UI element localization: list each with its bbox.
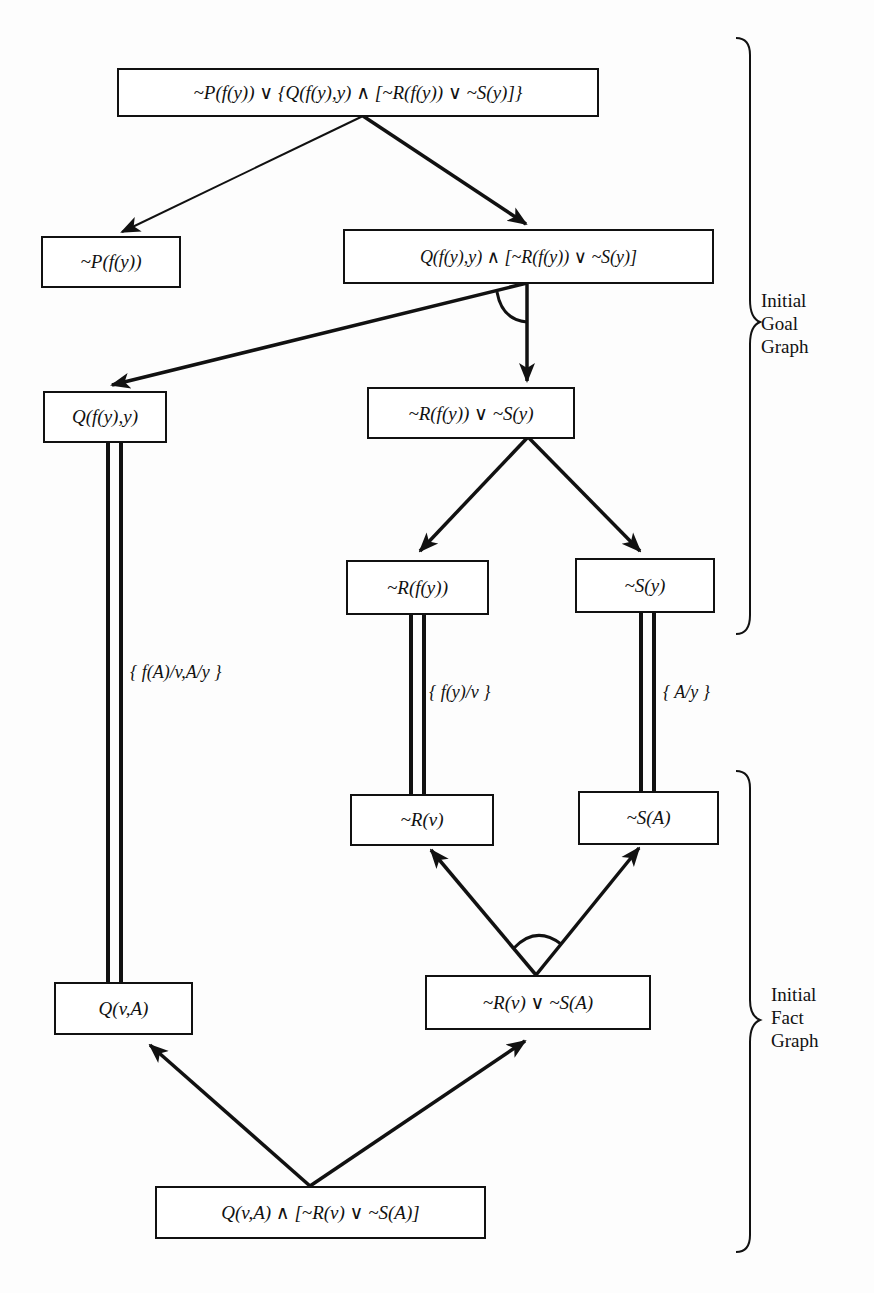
label-initial-goal-graph: Initial Goal Graph: [761, 289, 808, 358]
node-root-goal: ~P(f(y)) ∨ {Q(f(y),y) ∧ [~R(f(y)) ∨ ~S(y…: [117, 68, 599, 117]
edge-fact-root-to-fact-disj: [310, 1041, 525, 1186]
brace-fact-graph: [736, 771, 760, 1252]
edge-conj-to-goal-q: [112, 283, 527, 385]
edges-layer: [0, 0, 874, 1293]
and-arc-goal: [497, 292, 527, 322]
diagram-canvas: ~P(f(y)) ∨ {Q(f(y),y) ∧ [~R(f(y)) ∨ ~S(y…: [0, 0, 874, 1293]
match-link-r: [411, 614, 424, 794]
match-label-q: { f(A)/v,A/y }: [130, 662, 222, 683]
edge-root-to-conj: [363, 116, 526, 224]
node-fact-q: Q(v,A): [54, 982, 193, 1035]
edge-root-to-not-p: [122, 116, 363, 232]
node-goal-not-r: ~R(f(y)): [346, 560, 489, 615]
node-fact-not-r: ~R(v): [350, 794, 494, 846]
node-goal-conj: Q(f(y),y) ∧ [~R(f(y)) ∨ ~S(y)]: [343, 229, 714, 284]
node-fact-disj: ~R(v) ∨ ~S(A): [425, 975, 651, 1030]
edge-fact-root-to-fact-q: [150, 1045, 310, 1186]
match-label-s: { A/y }: [663, 682, 710, 703]
match-label-r: { f(y)/v }: [429, 682, 490, 703]
node-fact-root: Q(v,A) ∧ [~R(v) ∨ ~S(A)]: [155, 1186, 486, 1239]
node-fact-not-s: ~S(A): [578, 791, 719, 845]
match-link-q: [108, 440, 121, 982]
node-goal-not-p: ~P(f(y)): [41, 236, 181, 288]
brace-goal-graph: [736, 38, 760, 634]
match-link-s: [641, 612, 654, 791]
node-goal-q: Q(f(y),y): [43, 391, 167, 443]
edge-disj-to-not-s: [528, 437, 640, 551]
edge-disj-to-not-r: [420, 437, 528, 551]
edge-fact-disj-to-not-r: [431, 850, 536, 975]
node-goal-disj: ~R(f(y)) ∨ ~S(y): [367, 387, 575, 439]
and-arc-fact: [514, 935, 561, 948]
node-goal-not-s: ~S(y): [575, 558, 715, 613]
edge-fact-disj-to-not-s: [536, 848, 639, 975]
label-initial-fact-graph: Initial Fact Graph: [771, 983, 818, 1052]
